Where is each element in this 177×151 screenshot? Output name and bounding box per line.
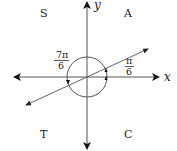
terminal-ray-7pi-6 — [26, 77, 87, 105]
unit-circle-diagram: S A T C y x 7π 6 π 6 — [0, 0, 177, 151]
angle-7pi-6-numerator: 7π — [56, 49, 68, 60]
quadrant-4-label: C — [124, 128, 132, 141]
quadrant-1-label: A — [123, 7, 133, 20]
terminal-ray-pi-6 — [87, 49, 148, 77]
angle-arrow-7pi-6 — [66, 80, 70, 85]
quadrant-2-label: S — [40, 7, 48, 20]
angle-pi-6-denominator: 6 — [126, 66, 132, 77]
angle-7pi-6-denominator: 6 — [58, 60, 64, 71]
angle-pi-6-numerator: π — [126, 55, 132, 66]
quadrant-3-label: T — [40, 128, 48, 141]
x-axis-label: x — [164, 70, 171, 84]
y-axis-label: y — [93, 0, 101, 12]
